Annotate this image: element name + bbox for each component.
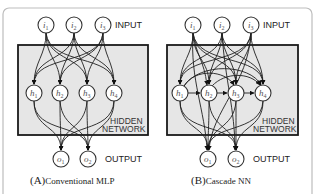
input-label: INPUT — [115, 20, 143, 30]
hidden-label-line2: NETWORK — [102, 124, 146, 134]
diagram-canvas: i1 i2 i3 h1 h2 h3 h4 o1 o2 INPUT HIDDEN … — [0, 0, 314, 194]
caption-b: (B)Cascade NN — [191, 174, 251, 187]
input-node-i1: i1 — [38, 17, 54, 33]
caption-a: (A)Conventional MLP — [30, 174, 115, 187]
input-label: INPUT — [263, 20, 291, 30]
input-node-i2: i2 — [66, 17, 82, 33]
hidden-label-line2: NETWORK — [253, 124, 297, 134]
output-node-o1: o1 — [53, 151, 69, 167]
hidden-node-h3: h3 — [79, 85, 95, 101]
input-node-i2: i2 — [214, 17, 230, 33]
hidden-node-h1: h1 — [26, 85, 42, 101]
output-label: OUTPUT — [105, 154, 143, 164]
input-node-i1: i1 — [185, 17, 201, 33]
hidden-node-h3: h3 — [228, 85, 244, 101]
hidden-node-h2: h2 — [201, 85, 217, 101]
hidden-node-h2: h2 — [52, 85, 68, 101]
hidden-node-h1: h1 — [172, 85, 188, 101]
hidden-node-h4: h4 — [255, 85, 271, 101]
input-node-i3: i3 — [243, 17, 259, 33]
output-label: OUTPUT — [253, 154, 291, 164]
hidden-node-h4: h4 — [106, 85, 122, 101]
output-node-o2: o2 — [228, 151, 244, 167]
output-node-o2: o2 — [80, 151, 96, 167]
input-node-i3: i3 — [95, 17, 111, 33]
output-node-o1: o1 — [200, 151, 216, 167]
